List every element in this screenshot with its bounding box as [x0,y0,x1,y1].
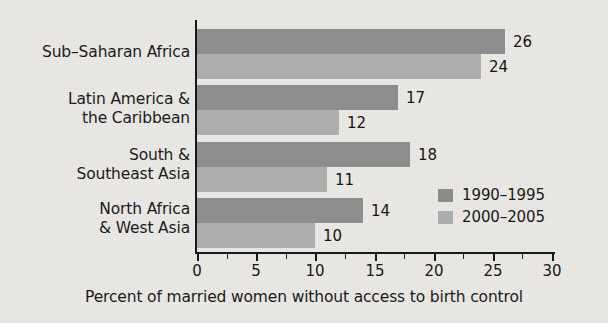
x-tick-minor [345,254,346,259]
x-axis-title: Percent of married women without access … [0,288,608,306]
x-tick-minor [522,254,523,259]
bar-value-label: 10 [323,229,342,244]
legend-item-2000-2005: 2000–2005 [438,206,545,228]
x-tick-minor [463,254,464,259]
legend-swatch-2000-2005 [438,211,453,224]
chart-legend: 1990–1995 2000–2005 [438,184,545,228]
bar-2000-2005-group-3 [197,167,327,192]
bar-1990-1995-group-2 [197,85,398,110]
x-tick-10 [315,254,317,261]
legend-item-1990-1995: 1990–1995 [438,184,545,206]
bar-value-label: 11 [335,173,354,188]
category-label-sub-saharan-africa: Sub–Saharan Africa [8,43,190,62]
x-tick-minor [404,254,405,259]
bar-value-label: 12 [347,116,366,131]
x-tick-minor [227,254,228,259]
legend-label-1990-1995: 1990–1995 [462,187,545,203]
bar-2000-2005-group-2 [197,110,339,135]
legend-swatch-1990-1995 [438,189,453,202]
bar-value-label: 18 [418,148,437,163]
x-tick-5 [256,254,258,261]
x-tick-label-15: 15 [355,263,395,279]
x-tick-label-25: 25 [473,263,513,279]
bar-value-label: 24 [489,60,508,75]
x-tick-0 [197,254,199,261]
bar-1990-1995-group-4 [197,198,363,223]
bar-2000-2005-group-1 [197,54,481,79]
category-label-south-southeast-asia: South & Southeast Asia [8,146,190,183]
bar-1990-1995-group-3 [197,142,410,167]
legend-label-2000-2005: 2000–2005 [462,209,545,225]
x-tick-label-20: 20 [414,263,454,279]
bar-1990-1995-group-1 [197,29,505,54]
bar-2000-2005-group-4 [197,223,315,248]
category-label-latin-america: Latin America & the Caribbean [8,90,190,127]
x-tick-25 [493,254,495,261]
bar-value-label: 26 [513,35,532,50]
x-tick-label-10: 10 [295,263,335,279]
x-tick-minor [286,254,287,259]
x-tick-label-0: 0 [177,263,217,279]
x-tick-15 [375,254,377,261]
bar-value-label: 14 [371,204,390,219]
x-tick-label-5: 5 [236,263,276,279]
x-tick-20 [434,254,436,261]
bar-value-label: 17 [406,91,425,106]
x-tick-30 [552,254,554,261]
bar-chart: Sub–Saharan Africa Latin America & the C… [0,0,608,323]
category-label-north-africa-west-asia: North Africa & West Asia [8,200,190,237]
x-tick-label-30: 30 [532,263,572,279]
